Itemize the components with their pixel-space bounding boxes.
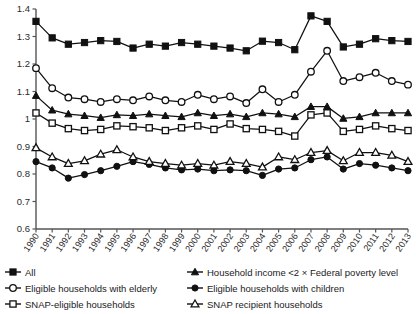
data-point-open-circle <box>146 93 153 100</box>
x-tick-label: 2000 <box>183 231 203 253</box>
data-point-open-circle <box>162 97 169 104</box>
x-tick-label: 2008 <box>313 231 333 253</box>
x-tick-label: 2011 <box>361 231 380 253</box>
legend-item[interactable]: All <box>4 266 186 278</box>
data-point-open-square <box>130 124 136 130</box>
data-point-filled-square <box>211 43 217 49</box>
data-point-open-circle <box>81 96 88 103</box>
data-point-open-circle <box>33 65 40 72</box>
legend-marker-filled-triangle <box>186 266 204 278</box>
data-point-open-circle <box>356 74 363 81</box>
x-tick-label: 1999 <box>167 231 187 253</box>
data-point-filled-square <box>373 36 379 42</box>
data-point-open-square <box>81 127 87 133</box>
data-point-filled-circle <box>243 168 249 174</box>
data-point-filled-square <box>405 38 411 44</box>
data-point-open-square <box>10 301 16 307</box>
x-tick-label: 2004 <box>248 231 268 253</box>
x-tick-label: 2005 <box>264 231 284 253</box>
legend-item[interactable]: Eligible households with children <box>186 282 414 294</box>
data-point-open-square <box>33 110 39 116</box>
data-point-filled-circle <box>192 285 198 291</box>
y-tick-label: 0.9 <box>17 141 30 152</box>
data-point-filled-square <box>130 45 136 51</box>
data-point-filled-square <box>324 18 330 24</box>
y-tick-label: 0.7 <box>17 196 30 207</box>
data-point-open-square <box>195 123 201 129</box>
data-point-open-square <box>243 126 249 132</box>
y-tick-label: 0.8 <box>17 168 30 179</box>
data-point-open-circle <box>10 285 17 292</box>
data-point-open-circle <box>389 78 396 85</box>
x-tick-label: 1998 <box>151 231 171 253</box>
data-point-filled-circle <box>292 165 298 171</box>
data-point-open-square <box>356 126 362 132</box>
legend-item-label: SNAP recipient households <box>207 299 322 310</box>
data-point-filled-square <box>389 38 395 44</box>
data-point-open-square <box>276 128 282 134</box>
x-tick-label: 1997 <box>135 231 155 253</box>
x-tick-label: 1996 <box>119 231 139 253</box>
x-tick-label: 2010 <box>345 231 365 253</box>
data-point-filled-circle <box>373 162 379 168</box>
data-point-open-square <box>292 133 298 139</box>
data-point-filled-square <box>308 13 314 19</box>
data-point-filled-square <box>259 38 265 44</box>
legend-item-label: Eligible households with children <box>207 283 344 294</box>
data-point-open-square <box>340 128 346 134</box>
data-point-filled-circle <box>98 168 104 174</box>
x-tick-label: 1994 <box>86 231 106 253</box>
y-tick-label: 1.4 <box>17 3 30 14</box>
legend-item-label: SNAP-eligible households <box>25 299 135 310</box>
data-point-open-circle <box>291 92 298 99</box>
data-point-open-circle <box>372 70 379 77</box>
data-point-filled-circle <box>65 175 71 181</box>
data-point-open-square <box>178 125 184 131</box>
data-point-filled-square <box>243 48 249 54</box>
data-point-filled-circle <box>308 157 314 163</box>
x-tick-label: 1991 <box>38 231 58 253</box>
data-point-open-circle <box>340 78 347 85</box>
data-point-open-circle <box>49 85 56 92</box>
x-tick-label: 2003 <box>232 231 252 253</box>
data-point-filled-square <box>114 38 120 44</box>
data-point-open-square <box>259 126 265 132</box>
data-point-open-circle <box>211 96 218 103</box>
chart-legend: AllHousehold income <2 × Federal poverty… <box>4 264 414 312</box>
data-point-filled-circle <box>227 167 233 173</box>
data-point-filled-square <box>292 47 298 53</box>
data-point-open-circle <box>97 99 104 106</box>
data-point-open-circle <box>324 48 331 55</box>
y-tick-label: 1.2 <box>17 58 30 69</box>
x-tick-label: 2001 <box>199 231 219 253</box>
legend-item-label: All <box>25 267 36 278</box>
legend-marker-open-square <box>4 298 22 310</box>
data-point-filled-square <box>33 18 39 24</box>
legend-marker-open-triangle <box>186 298 204 310</box>
x-axis-ticks: 1990199119921993199419951996199719981999… <box>21 229 413 254</box>
x-tick-label: 1990 <box>21 231 41 253</box>
x-tick-label: 1993 <box>70 231 90 253</box>
data-point-open-square <box>49 120 55 126</box>
data-point-filled-square <box>195 41 201 47</box>
data-point-open-circle <box>130 97 137 104</box>
data-point-open-square <box>162 127 168 133</box>
data-point-open-square <box>227 121 233 127</box>
data-point-filled-square <box>65 41 71 47</box>
legend-item[interactable]: SNAP recipient households <box>186 298 414 310</box>
data-point-open-circle <box>65 94 72 101</box>
legend-marker-filled-circle <box>186 282 204 294</box>
data-point-filled-circle <box>356 160 362 166</box>
y-tick-label: 1 <box>25 113 30 124</box>
data-point-open-circle <box>259 86 266 93</box>
data-point-open-circle <box>308 68 315 75</box>
legend-item[interactable]: Household income <2 × Federal poverty le… <box>186 266 414 278</box>
data-point-open-circle <box>275 99 282 106</box>
data-point-filled-square <box>49 35 55 41</box>
legend-item[interactable]: SNAP-eligible households <box>4 298 186 310</box>
data-point-filled-square <box>178 39 184 45</box>
x-tick-label: 2012 <box>377 231 397 253</box>
y-tick-label: 1.1 <box>17 86 30 97</box>
y-axis-ticks: 0.60.70.80.911.11.21.31.4 <box>17 3 36 234</box>
legend-item[interactable]: Eligible households with elderly <box>4 282 186 294</box>
